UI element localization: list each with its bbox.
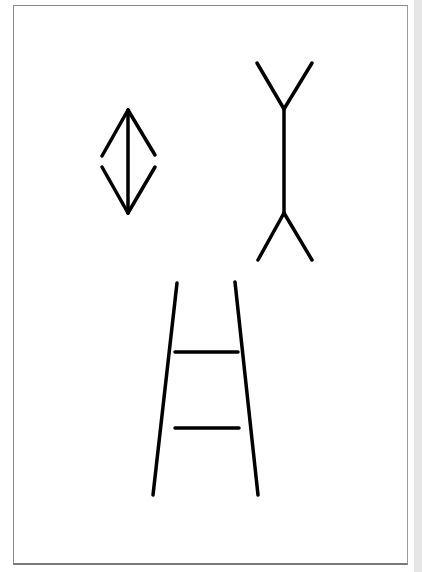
fin-line <box>102 167 128 213</box>
illusion-figure <box>0 0 422 572</box>
fin-line <box>128 167 155 213</box>
fin-line <box>257 63 284 109</box>
fin-line <box>258 213 284 260</box>
muller-lyer-arrows-in <box>102 110 155 213</box>
fin-line <box>284 213 312 260</box>
ponzo-illusion <box>153 282 258 495</box>
rail-line <box>153 283 177 495</box>
fin-line <box>284 63 312 109</box>
muller-lyer-arrows-out <box>257 63 312 260</box>
fin-line <box>102 110 128 156</box>
rail-line <box>235 282 258 495</box>
fin-line <box>128 110 155 155</box>
